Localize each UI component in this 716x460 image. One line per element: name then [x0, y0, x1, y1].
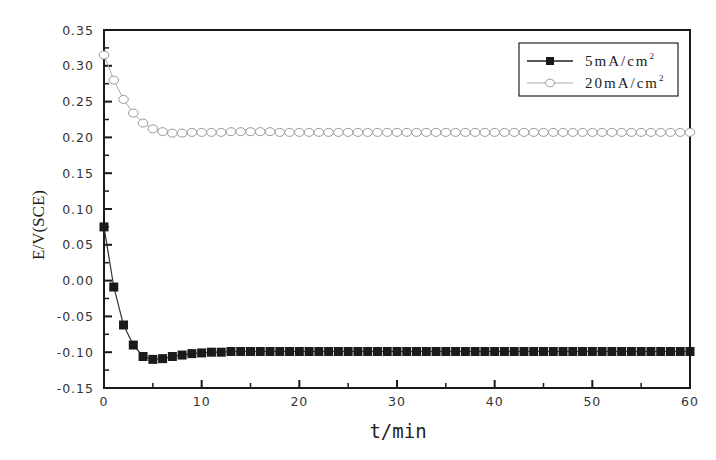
- data-point: [236, 347, 245, 356]
- data-point: [373, 347, 382, 356]
- data-point: [304, 128, 314, 136]
- data-point: [207, 348, 216, 357]
- data-point: [129, 109, 139, 117]
- data-point: [471, 347, 480, 356]
- data-point: [119, 320, 128, 329]
- series-5ma: [100, 222, 695, 363]
- data-point: [178, 351, 187, 360]
- data-point: [588, 347, 597, 356]
- legend: 5mA/cm2 20mA/cm2: [519, 43, 678, 96]
- data-point: [382, 128, 392, 136]
- data-point: [549, 347, 558, 356]
- data-point: [656, 347, 665, 356]
- data-point: [470, 128, 480, 136]
- y-tick-label: 0.25: [62, 94, 94, 109]
- data-point: [597, 128, 607, 136]
- data-point: [617, 128, 627, 136]
- data-point: [334, 347, 343, 356]
- data-point: [441, 128, 451, 136]
- y-tick-label: 0.35: [62, 23, 94, 38]
- y-tick-label: 0.15: [62, 166, 94, 181]
- data-point: [461, 347, 470, 356]
- data-point: [197, 128, 207, 136]
- data-point: [598, 347, 607, 356]
- data-point: [422, 347, 431, 356]
- open-circle-marker-icon: [546, 79, 555, 87]
- data-point: [510, 347, 519, 356]
- x-tick-label: 60: [681, 394, 699, 409]
- legend-label-5ma: 5mA/cm: [585, 53, 650, 69]
- data-point: [266, 347, 275, 356]
- data-point: [519, 347, 528, 356]
- y-tick-label: 0.00: [62, 273, 94, 288]
- data-point: [285, 347, 294, 356]
- data-point: [100, 222, 109, 231]
- x-tick-label: 50: [583, 394, 601, 409]
- data-point: [109, 283, 118, 292]
- svg-text:20mA/cm2: 20mA/cm2: [585, 73, 666, 91]
- data-point: [324, 347, 333, 356]
- data-point: [432, 347, 441, 356]
- data-point: [353, 347, 362, 356]
- data-point: [539, 128, 549, 136]
- data-point: [226, 128, 236, 136]
- data-point: [285, 128, 295, 136]
- data-point: [187, 128, 197, 136]
- data-point: [138, 119, 148, 127]
- data-point: [373, 128, 383, 136]
- data-point: [275, 347, 284, 356]
- data-point: [129, 341, 138, 350]
- data-point: [490, 128, 500, 136]
- data-point: [295, 347, 304, 356]
- y-tick-label: -0.05: [57, 309, 94, 324]
- data-point: [461, 128, 471, 136]
- data-point: [119, 95, 129, 103]
- data-point: [431, 128, 441, 136]
- data-point: [686, 347, 695, 356]
- data-point: [646, 128, 656, 136]
- data-point: [548, 128, 558, 136]
- data-point: [158, 128, 168, 136]
- x-tick-label: 10: [193, 394, 211, 409]
- data-point: [412, 347, 421, 356]
- data-point: [99, 51, 109, 59]
- x-tick-label: 0: [100, 394, 109, 409]
- data-point: [226, 347, 235, 356]
- x-tick-label: 30: [388, 394, 406, 409]
- y-axis-label: E/V(SCE): [29, 190, 48, 260]
- data-point: [607, 128, 617, 136]
- y-tick-label: 0.20: [62, 130, 94, 145]
- data-point: [558, 128, 568, 136]
- data-point: [568, 128, 578, 136]
- data-point: [217, 348, 226, 357]
- data-point: [617, 347, 626, 356]
- data-point: [636, 128, 646, 136]
- x-tick-label: 20: [290, 394, 308, 409]
- data-point: [451, 128, 461, 136]
- data-point: [197, 348, 206, 357]
- data-point: [529, 347, 538, 356]
- svg-text:5mA/cm2: 5mA/cm2: [585, 51, 656, 69]
- data-point: [422, 128, 432, 136]
- x-axis-label: t/min: [369, 420, 426, 442]
- data-point: [148, 125, 158, 133]
- data-point: [344, 347, 353, 356]
- y-tick-label: 0.05: [62, 237, 94, 252]
- data-point: [412, 128, 422, 136]
- data-point: [393, 347, 402, 356]
- data-point: [441, 347, 450, 356]
- data-point: [656, 128, 666, 136]
- data-point: [334, 128, 344, 136]
- data-point: [480, 128, 490, 136]
- data-point: [148, 355, 157, 364]
- y-tick-label: 0.10: [62, 202, 94, 217]
- data-point: [207, 128, 217, 136]
- data-point: [246, 128, 256, 136]
- x-axis: 0102030405060: [100, 380, 699, 409]
- data-point: [588, 128, 598, 136]
- line-chart: 0.350.300.250.200.150.100.050.00-0.05-0.…: [0, 0, 716, 460]
- data-point: [637, 347, 646, 356]
- data-point: [363, 128, 373, 136]
- data-point: [490, 347, 499, 356]
- data-point: [529, 128, 539, 136]
